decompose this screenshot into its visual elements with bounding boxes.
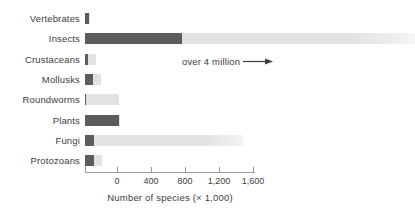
bar-segment-estimated [93, 74, 101, 85]
bar-segment-known [85, 155, 94, 166]
bar-segment-estimated [89, 13, 90, 24]
bar-row [85, 115, 120, 126]
x-axis-tick-label: 1,600 [242, 176, 265, 186]
species-bar-chart: Vertebrates Insects Crustaceans Mollusks… [0, 0, 415, 219]
annotation-over-4-million: over 4 million [182, 56, 273, 67]
bar-segment-known [85, 135, 94, 146]
annotation-label: over 4 million [182, 56, 240, 67]
bar-row [85, 13, 90, 24]
bar-segment-estimated [86, 94, 118, 105]
bar-segment-known [85, 74, 94, 85]
bar-segment-estimated [182, 33, 415, 44]
x-axis-tick [117, 167, 118, 173]
bar-segment-estimated [94, 135, 244, 146]
bar-row [85, 54, 96, 65]
bar-row [85, 155, 102, 166]
bar-segment-estimated [119, 115, 120, 126]
x-axis-tick [151, 167, 152, 173]
bar-segment-known [85, 33, 183, 44]
bar-row [85, 33, 415, 44]
x-axis-tick-label: 400 [143, 176, 158, 186]
x-axis-tick [219, 167, 220, 173]
bar-row [85, 135, 245, 146]
x-axis-title: Number of species (× 1,000) [0, 192, 340, 203]
x-axis-tick-label: 0 [114, 176, 119, 186]
x-axis-tick-label: 800 [177, 176, 192, 186]
x-axis-left-cap [85, 166, 86, 173]
bar-segment-estimated [88, 54, 96, 65]
x-axis-tick [185, 167, 186, 173]
x-axis-line [85, 172, 255, 173]
plot-area: over 4 million [0, 0, 415, 172]
x-axis-tick-label: 1,200 [208, 176, 231, 186]
right-arrow-icon [243, 57, 273, 66]
bar-segment-estimated [94, 155, 102, 166]
bar-row [85, 74, 101, 85]
bar-segment-known [85, 115, 119, 126]
x-axis-tick [253, 167, 254, 173]
bar-row [85, 94, 119, 105]
